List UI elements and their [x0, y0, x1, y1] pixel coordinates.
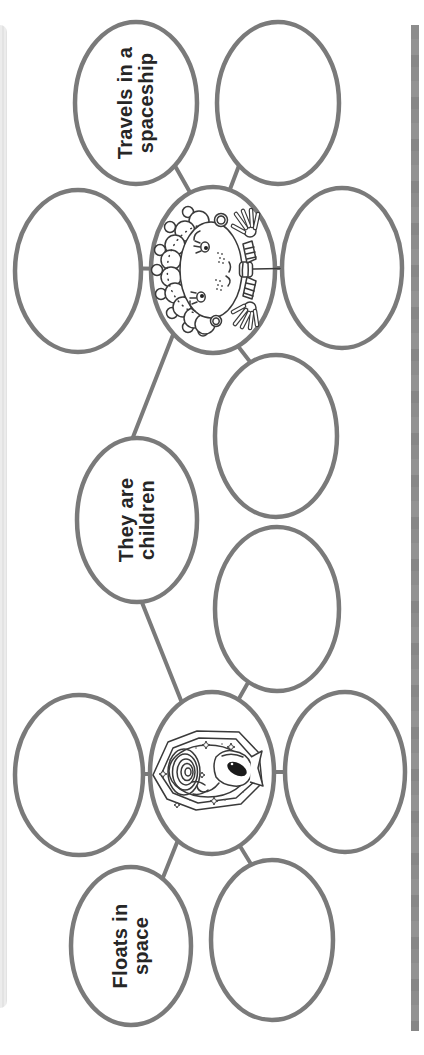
mind-map-diagram — [0, 0, 424, 1055]
answer-oval-top-right — [217, 22, 339, 184]
connector-children-alien — [137, 590, 188, 718]
answer-oval-bottom-right — [211, 860, 333, 1020]
label-line: spaceship — [136, 53, 158, 154]
label-line: children — [137, 480, 159, 560]
answer-oval-right-row5 — [285, 692, 405, 852]
label-floats-in-space: Floats in space — [108, 861, 154, 1031]
ovals — [15, 22, 405, 1025]
answer-oval-left-row2 — [15, 190, 141, 352]
label-line: Floats in — [110, 904, 132, 989]
label-line: space — [131, 917, 153, 975]
answer-oval-right-row2 — [282, 188, 402, 348]
answer-oval-left-row5 — [15, 695, 143, 855]
label-line: They are — [116, 478, 138, 563]
label-line: Travels in a — [115, 47, 137, 160]
answer-oval-right-row3 — [215, 355, 337, 517]
label-travels-in-a-spaceship: Travels in a spaceship — [113, 18, 159, 188]
answer-oval-right-row4 — [215, 527, 339, 691]
label-they-are-children: They are children — [114, 435, 160, 605]
